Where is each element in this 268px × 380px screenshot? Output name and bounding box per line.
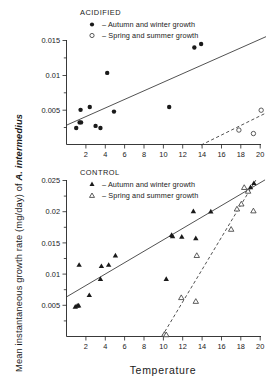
legend-control: – Autumn and winter growth – Spring and … (90, 180, 199, 200)
data-point (179, 295, 184, 300)
y-tick-label: 0.015 (42, 239, 61, 248)
data-point (199, 42, 203, 46)
control-plot-svg: 0.025 0.02 0.015 0.01 0.005 (22, 166, 268, 380)
legend-label-spring-summer: – Spring and summer growth (102, 191, 198, 200)
data-point (98, 276, 103, 281)
x-tick-label: 8 (142, 342, 146, 351)
panel-acidified: 0.015 0.01 0.005 (22, 2, 268, 174)
data-point (251, 131, 255, 135)
control-fit-lines (67, 179, 266, 336)
x-axis-tick-labels: 2 4 6 8 10 12 14 16 18 20 (84, 342, 264, 351)
x-tick-label: 16 (217, 150, 225, 159)
data-point (76, 262, 81, 267)
panel-title-control: CONTROL (80, 168, 120, 177)
x-tick-label: 20 (256, 342, 264, 351)
y-tick-label: 0.01 (46, 71, 60, 80)
legend-marker-open-triangle-icon (90, 193, 95, 197)
data-point (191, 208, 196, 213)
y-tick-label: 0.005 (42, 301, 61, 310)
data-point (79, 120, 83, 124)
control-data-points (73, 180, 257, 336)
data-point (237, 128, 241, 132)
legend-marker-open-circle-icon (90, 33, 94, 37)
data-point (194, 253, 199, 258)
legend-marker-filled-circle-icon (90, 22, 94, 26)
data-point (192, 45, 196, 49)
data-point (228, 227, 233, 232)
x-tick-label: 12 (179, 342, 187, 351)
legend-label-autumn-winter: – Autumn and winter growth (102, 20, 195, 29)
legend-label-spring-summer: – Spring and summer growth (102, 31, 198, 40)
legend-label-autumn-winter: – Autumn and winter growth (102, 180, 195, 189)
acidified-data-points (74, 42, 263, 136)
legend-marker-filled-triangle-icon (90, 182, 95, 186)
data-point (87, 292, 92, 297)
x-tick-label: 4 (103, 150, 107, 159)
x-tick-label: 2 (84, 342, 88, 351)
data-point (74, 126, 78, 130)
data-point (99, 263, 104, 268)
data-point (167, 105, 171, 109)
y-axis-title-area: Mean instantaneous growth rate (mg/day) … (0, 0, 22, 380)
x-tick-label: 6 (123, 342, 127, 351)
data-point (251, 180, 256, 185)
control-plot-area: 0.025 0.02 0.015 0.01 0.005 (42, 168, 266, 376)
data-point (239, 201, 244, 206)
acidified-fit-lines (67, 37, 266, 145)
legend-acidified: – Autumn and winter growth – Spring and … (90, 20, 198, 40)
x-axis-title: Temperature (130, 364, 197, 376)
y-axis-tick-labels: 0.015 0.01 0.005 (42, 36, 61, 115)
data-point (164, 276, 169, 281)
x-tick-label: 18 (237, 150, 245, 159)
data-point (259, 108, 263, 112)
axis-spines (67, 180, 262, 337)
panel-control: 0.025 0.02 0.015 0.01 0.005 (22, 166, 268, 380)
x-tick-label: 16 (217, 342, 225, 351)
data-point (242, 185, 247, 190)
x-tick-label: 14 (198, 150, 206, 159)
x-axis-ticks (86, 145, 260, 149)
y-axis-ticks (63, 41, 67, 128)
y-tick-label: 0.02 (46, 207, 60, 216)
data-point (78, 108, 82, 112)
data-point (105, 71, 109, 75)
x-tick-label: 20 (256, 150, 264, 159)
y-tick-label: 0.015 (42, 36, 61, 45)
x-axis-tick-labels: 2 4 6 8 10 12 14 16 18 20 (84, 150, 264, 159)
x-tick-label: 14 (198, 342, 206, 351)
y-tick-label: 0.005 (42, 106, 61, 115)
x-axis-ticks (86, 337, 260, 341)
y-tick-label: 0.01 (46, 270, 60, 279)
y-axis-ticks (63, 181, 67, 321)
acidified-plot-svg: 0.015 0.01 0.005 (22, 2, 268, 174)
acidified-plot-area: 0.015 0.01 0.005 (42, 8, 267, 159)
y-tick-label: 0.025 (42, 176, 61, 185)
data-point (98, 126, 102, 130)
fit-line-filled-circle (67, 37, 266, 126)
x-tick-label: 4 (103, 342, 107, 351)
x-tick-label: 6 (123, 150, 127, 159)
data-point (193, 236, 198, 241)
data-point (251, 208, 256, 213)
axis-spines (67, 40, 262, 145)
data-point (179, 234, 184, 239)
x-tick-label: 10 (159, 342, 167, 351)
fit-line-open-circle (201, 113, 266, 145)
x-tick-label: 12 (179, 150, 187, 159)
figure-container: Mean instantaneous growth rate (mg/day) … (0, 0, 268, 380)
y-axis-tick-labels: 0.025 0.02 0.015 0.01 0.005 (42, 176, 61, 310)
x-tick-label: 18 (237, 342, 245, 351)
data-point (193, 299, 198, 304)
data-point (88, 105, 92, 109)
data-point (93, 124, 97, 128)
panel-title-acidified: ACIDIFIED (80, 8, 121, 17)
data-point (106, 262, 111, 267)
x-tick-label: 10 (159, 150, 167, 159)
data-point (234, 206, 239, 211)
x-tick-label: 8 (142, 150, 146, 159)
x-tick-label: 2 (84, 150, 88, 159)
data-point (112, 109, 116, 113)
data-point (113, 253, 118, 258)
